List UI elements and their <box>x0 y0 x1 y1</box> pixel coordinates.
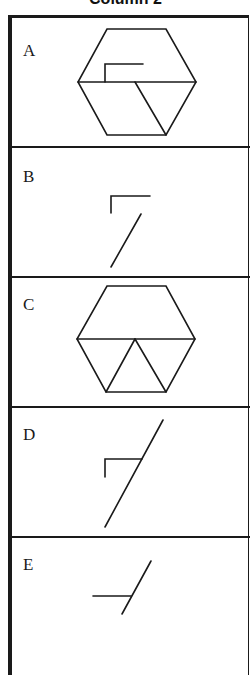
figure-b-bracket-diagonal-icon <box>111 196 150 267</box>
figure-c-hexagon-triangle-icon <box>77 286 195 392</box>
figure-a-hexagon-icon <box>78 29 196 135</box>
figure-e-diagonal-stub-icon <box>93 561 151 614</box>
figure-d-diagonal-bracket-icon <box>105 420 163 527</box>
